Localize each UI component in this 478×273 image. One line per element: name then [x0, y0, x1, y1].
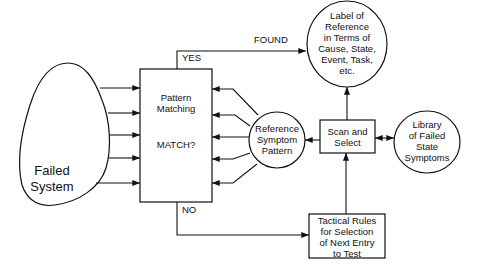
pattern-matching-question: MATCH? — [140, 139, 212, 150]
tactical-rules-text: Tactical Rules for Selection of Next Ent… — [309, 215, 385, 259]
yes-label: YES — [182, 52, 201, 63]
failed-system-label: Failed System — [22, 163, 82, 195]
found-label: FOUND — [254, 34, 288, 45]
no-edge — [177, 202, 309, 235]
pattern-matching-title: Pattern Matching — [140, 92, 212, 114]
scan-and-select-text: Scan and Select — [320, 126, 375, 148]
library-text: Library of Failed State Symptoms — [395, 119, 459, 163]
pattern-matching-box — [140, 69, 212, 202]
no-label: NO — [182, 204, 196, 215]
label-of-reference-text: Label of Reference in Terms of Cause, St… — [307, 10, 387, 76]
reference-symptom-pattern-text: Reference Symptom Pattern — [249, 123, 305, 156]
